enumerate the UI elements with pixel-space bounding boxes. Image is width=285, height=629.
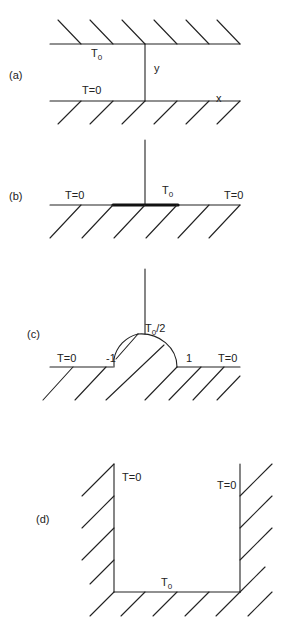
- panel-d: (d) T=0 T=0 T0: [36, 464, 272, 616]
- right-boundary-label: T=0: [218, 352, 237, 364]
- left-wall-hatching: [82, 464, 114, 584]
- panel-b-label: (b): [9, 190, 22, 202]
- panel-d-label: (d): [36, 513, 49, 525]
- boundary-hatching: [50, 205, 240, 238]
- panel-b: (b) T=0 T0 T=0: [9, 140, 243, 238]
- bottom-wall-label: T0: [161, 576, 173, 591]
- right-wall-hatching: [240, 464, 272, 592]
- bottom-wall-hatching: [58, 101, 240, 124]
- y-axis-label: y: [154, 62, 160, 74]
- right-boundary-label: T=0: [224, 189, 243, 201]
- panel-a: (a) T0 y T=0 x: [9, 20, 240, 124]
- bottom-wall-hatching: [90, 592, 272, 616]
- x-axis-label: x: [216, 92, 222, 104]
- top-wall-hatching: [58, 20, 240, 44]
- panel-c-label: (c): [27, 328, 40, 340]
- panel-c: (c) T=0 -1 T0/2 1 T=0: [27, 269, 240, 400]
- strip-label: T0: [162, 184, 174, 199]
- left-boundary-label: T=0: [65, 189, 84, 201]
- left-boundary-label: T=0: [57, 352, 76, 364]
- left-wall-label: T=0: [122, 471, 141, 483]
- boundary-condition-diagrams: (a) T0 y T=0 x (b): [0, 0, 285, 629]
- minus-one-label: -1: [106, 352, 116, 364]
- bottom-wall-label: T=0: [82, 84, 101, 96]
- top-wall-label: T0: [91, 47, 103, 62]
- right-wall-label: T=0: [217, 479, 236, 491]
- one-label: 1: [186, 352, 192, 364]
- panel-a-label: (a): [9, 69, 22, 81]
